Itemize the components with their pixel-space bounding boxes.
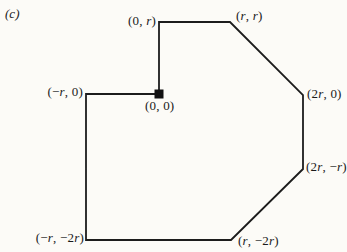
vertex-label-negr-neg2r: (−r, −2r) [36, 231, 84, 245]
panel-label: (c) [5, 6, 19, 22]
vertex-label-negr-0: (−r, 0) [48, 85, 83, 99]
vertex-label-2r-0: (2r, 0) [307, 87, 342, 101]
vertex-label-r-neg2r: (r, −2r) [238, 234, 279, 248]
vertex-label-r-r: (r, r) [236, 9, 263, 23]
vertex-label-2r-negr: (2r, −r) [306, 160, 347, 174]
vertex-label-0-0: (0, 0) [145, 99, 174, 113]
vertex-label-0-r: (0, r) [128, 14, 156, 28]
polygon-outline [86, 22, 303, 240]
